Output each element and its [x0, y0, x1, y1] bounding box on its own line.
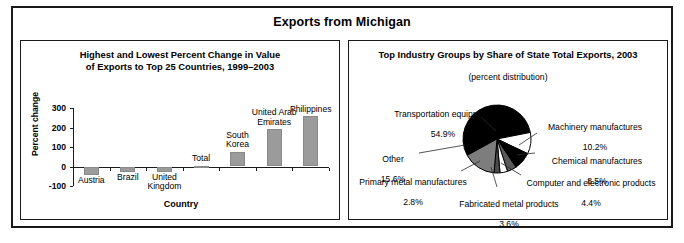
y-tick-label: 300	[32, 103, 66, 113]
x-tick-mark	[292, 168, 293, 171]
y-tick-mark	[70, 128, 73, 129]
y-tick-label: 100	[32, 142, 66, 152]
x-tick-mark	[329, 168, 330, 171]
y-tick-mark	[70, 167, 73, 168]
y-axis-line	[73, 108, 74, 186]
y-tick-label: 0	[32, 162, 66, 172]
bar-chart-panel: Highest and Lowest Percent Change in Val…	[20, 40, 340, 220]
x-tick-mark	[146, 168, 147, 171]
y-tick-mark	[70, 147, 73, 148]
bar-category-label: United Kingdom	[133, 173, 195, 192]
x-tick-mark	[110, 168, 111, 171]
bar-category-label: South Korea	[207, 131, 269, 150]
pie-chart-panel: Top Industry Groups by Share of State To…	[348, 40, 668, 220]
bar-total	[194, 166, 209, 168]
y-tick-mark	[70, 186, 73, 187]
x-tick-mark	[219, 168, 220, 171]
bar-category-label: Total	[170, 154, 232, 164]
y-tick-label: 200	[32, 123, 66, 133]
pie-label-transportation: Transportation equipment 54.9%	[377, 99, 509, 149]
x-axis-label: Country	[51, 199, 311, 209]
bar-united-arab-emirates	[267, 129, 282, 166]
x-tick-mark	[256, 168, 257, 171]
figure-title: Exports from Michigan	[13, 15, 671, 29]
bar-category-label: Philippines	[280, 105, 342, 115]
pie-chart-plot: Transportation equipment 54.9% Machinery…	[349, 41, 669, 221]
y-tick-mark	[70, 108, 73, 109]
x-tick-mark	[183, 168, 184, 171]
bar-chart-plot: Percent change Country 3002001000-100Aus…	[21, 41, 341, 221]
pie-label-other: Other 15.6%	[361, 144, 425, 194]
bar-philippines	[303, 116, 318, 166]
figure-frame: Exports from Michigan Highest and Lowest…	[11, 6, 673, 228]
bar-south-korea	[230, 152, 245, 166]
bar-united-kingdom	[157, 167, 172, 172]
